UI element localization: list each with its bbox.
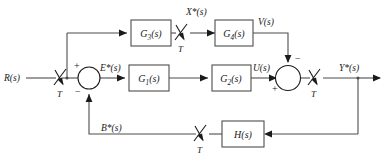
block-h[interactable]: H(s): [222, 121, 264, 147]
sum-error-circle: [78, 67, 100, 89]
sampler-feedback-label: T: [197, 145, 203, 155]
arrowhead-sum-error-minus: [86, 94, 93, 102]
signal-label-v: V(s): [258, 17, 274, 28]
signal-label-x-star: X*(s): [185, 7, 207, 18]
block-g2[interactable]: G2(s): [212, 65, 251, 91]
branch-node-input: [66, 77, 69, 80]
signal-label-output: Y*(s): [339, 63, 359, 74]
branch-node-output: [357, 77, 360, 80]
sampler-feedback[interactable]: T: [194, 125, 206, 155]
sum-output-minus-sign: −: [295, 53, 301, 64]
sampler-input[interactable]: T: [54, 69, 66, 99]
block-diagram-canvas: T T T T + −: [0, 0, 389, 158]
block-g3[interactable]: G3(s): [131, 20, 171, 46]
signal-label-feedback: B*(s): [101, 123, 122, 134]
block-g1[interactable]: G1(s): [129, 65, 169, 91]
arrowhead-g1-input: [117, 75, 125, 82]
sampler-input-label: T: [57, 89, 63, 99]
arrowhead-h-input: [264, 131, 272, 138]
arrowhead-g2-input: [200, 75, 208, 82]
sampler-output-label: T: [311, 89, 317, 99]
sum-error-minus-sign: −: [75, 86, 81, 97]
sum-output-circle: [276, 66, 301, 91]
arrowhead-output: [373, 75, 381, 82]
sampler-x-label: T: [178, 44, 184, 54]
signal-label-error: E*(s): [99, 63, 121, 74]
block-diagram-svg: T T T T + −: [0, 0, 389, 158]
signal-label-u: U(s): [253, 63, 270, 74]
arrowhead-g3-input: [119, 30, 127, 37]
signal-label-input: R(s): [3, 73, 20, 84]
arrowhead-g4-input: [207, 30, 215, 37]
sampler-x[interactable]: T: [175, 24, 187, 54]
block-g4[interactable]: G4(s): [215, 20, 253, 46]
arrowhead-sum-output-v: [285, 55, 292, 63]
sum-error-plus-sign: +: [74, 60, 80, 71]
sampler-output[interactable]: T: [308, 69, 320, 99]
wire-g4-to-sum-output: [253, 33, 288, 62]
sum-error[interactable]: + −: [74, 60, 100, 97]
block-h-label: H(s): [233, 129, 252, 141]
sum-output-plus-sign: +: [272, 83, 278, 94]
